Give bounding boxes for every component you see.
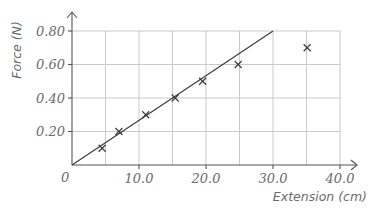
y-tick-label: 0.40 bbox=[36, 91, 65, 106]
x-tick-label: 30.0 bbox=[259, 171, 288, 186]
x-axis-label: Extension (cm) bbox=[273, 189, 367, 204]
x-ticks: 10.020.030.040.0 bbox=[125, 165, 355, 186]
y-axis-label: Force (N) bbox=[9, 21, 24, 79]
y-tick-label: 0.20 bbox=[36, 124, 65, 139]
y-ticks: 0.200.400.600.80 bbox=[36, 24, 72, 140]
y-tick-label: 0.60 bbox=[36, 57, 65, 72]
force-extension-chart: 0.200.400.600.80 10.020.030.040.0 0 Exte… bbox=[0, 0, 387, 215]
x-tick-label: 10.0 bbox=[125, 171, 154, 186]
y-tick-label: 0.80 bbox=[36, 24, 65, 39]
x-tick-label: 20.0 bbox=[191, 171, 221, 186]
x-marker-icon bbox=[99, 145, 106, 152]
x-marker-icon bbox=[199, 78, 206, 85]
x-tick-label: 40.0 bbox=[325, 171, 355, 186]
grid bbox=[72, 31, 340, 165]
x-marker-icon bbox=[304, 44, 311, 51]
axes bbox=[67, 12, 357, 170]
origin-label: 0 bbox=[61, 170, 69, 185]
